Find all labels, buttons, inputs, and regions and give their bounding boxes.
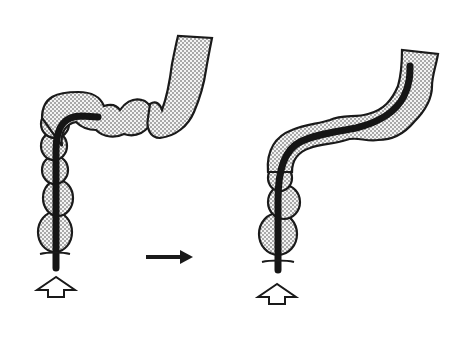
endoscope-after: [278, 66, 410, 270]
insertion-arrow-icon: [37, 277, 75, 297]
colon-straightening-diagram: [0, 0, 467, 343]
panel-after: [258, 50, 438, 304]
colon-before: [38, 36, 212, 252]
insertion-arrow-icon: [258, 284, 296, 304]
transition-arrow: [146, 250, 193, 264]
